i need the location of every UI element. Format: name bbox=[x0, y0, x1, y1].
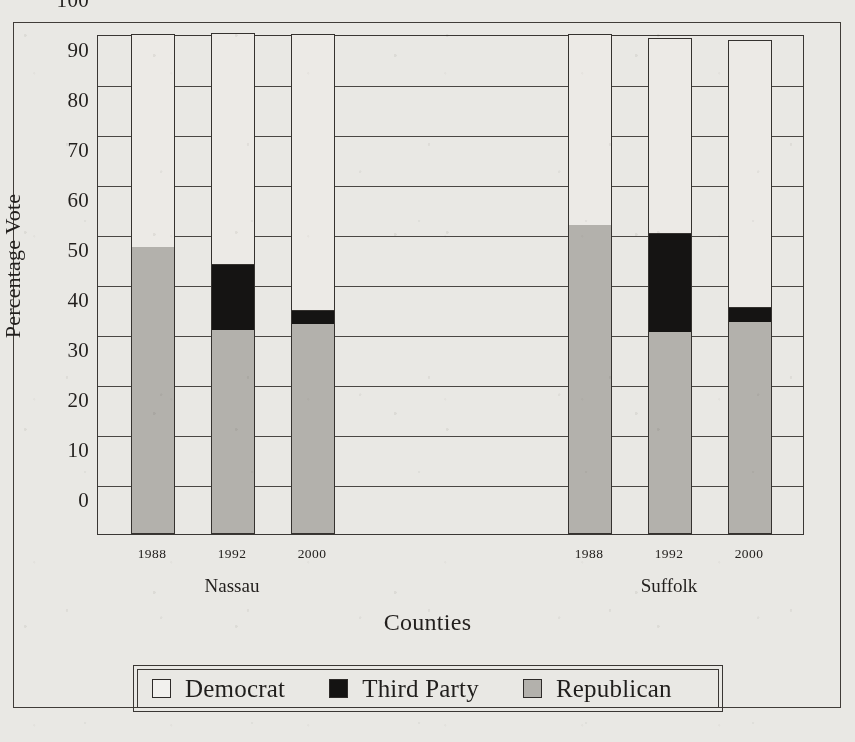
y-tick-label-70: 70 bbox=[67, 138, 89, 163]
x-axis-title: Counties bbox=[0, 609, 855, 636]
republican-swatch-icon bbox=[523, 679, 542, 698]
bar-nassau-1988[interactable] bbox=[131, 34, 175, 534]
segment-republican-nassau-2000 bbox=[292, 324, 334, 533]
x-tick-label-nassau-1988: 1988 bbox=[138, 546, 167, 562]
segment-democrat-nassau-1988 bbox=[132, 35, 174, 247]
legend-label-third-party: Third Party bbox=[362, 675, 479, 703]
segment-democrat-nassau-1992 bbox=[212, 34, 254, 265]
bar-suffolk-1988[interactable] bbox=[568, 34, 612, 534]
y-axis-title: Percentage Vote bbox=[0, 86, 26, 446]
segment-third-party-suffolk-1992 bbox=[649, 233, 691, 332]
y-tick-label-50: 50 bbox=[67, 238, 89, 263]
gridline-50 bbox=[98, 286, 803, 287]
x-tick-label-suffolk-1988: 1988 bbox=[575, 546, 604, 562]
gridline-90 bbox=[98, 86, 803, 87]
segment-third-party-nassau-1992 bbox=[212, 264, 254, 330]
legend-label-democrat: Democrat bbox=[185, 675, 285, 703]
bar-nassau-1992[interactable] bbox=[211, 33, 255, 535]
chart-legend: DemocratThird PartyRepublican bbox=[133, 665, 723, 712]
y-tick-label-10: 10 bbox=[67, 438, 89, 463]
legend-item-third-party[interactable]: Third Party bbox=[329, 675, 479, 703]
segment-democrat-suffolk-1992 bbox=[649, 39, 691, 233]
chart-figure: Percentage Vote 0102030405060708090100 1… bbox=[0, 0, 855, 742]
gridline-80 bbox=[98, 136, 803, 137]
x-tick-label-nassau-1992: 1992 bbox=[218, 546, 247, 562]
bar-suffolk-2000[interactable] bbox=[728, 40, 772, 534]
gridline-60 bbox=[98, 236, 803, 237]
segment-third-party-suffolk-2000 bbox=[729, 307, 771, 322]
segment-democrat-suffolk-2000 bbox=[729, 41, 771, 307]
segment-republican-nassau-1992 bbox=[212, 330, 254, 533]
legend-label-republican: Republican bbox=[556, 675, 672, 703]
segment-republican-nassau-1988 bbox=[132, 247, 174, 533]
y-tick-label-40: 40 bbox=[67, 288, 89, 313]
third-party-swatch-icon bbox=[329, 679, 348, 698]
gridline-70 bbox=[98, 186, 803, 187]
legend-item-democrat[interactable]: Democrat bbox=[152, 675, 285, 703]
bar-nassau-2000[interactable] bbox=[291, 34, 335, 534]
group-label-nassau: Nassau bbox=[205, 575, 260, 597]
y-tick-label-20: 20 bbox=[67, 388, 89, 413]
segment-democrat-nassau-2000 bbox=[292, 35, 334, 310]
segment-republican-suffolk-2000 bbox=[729, 322, 771, 533]
y-tick-label-100: 100 bbox=[57, 0, 89, 13]
y-tick-label-0: 0 bbox=[78, 488, 89, 513]
x-tick-label-suffolk-1992: 1992 bbox=[655, 546, 684, 562]
x-tick-label-suffolk-2000: 2000 bbox=[735, 546, 764, 562]
gridline-30 bbox=[98, 386, 803, 387]
democrat-swatch-icon bbox=[152, 679, 171, 698]
y-tick-label-80: 80 bbox=[67, 88, 89, 113]
gridline-40 bbox=[98, 336, 803, 337]
plot-area bbox=[97, 35, 804, 535]
group-label-suffolk: Suffolk bbox=[641, 575, 698, 597]
legend-item-republican[interactable]: Republican bbox=[523, 675, 672, 703]
bar-suffolk-1992[interactable] bbox=[648, 38, 692, 534]
y-tick-label-60: 60 bbox=[67, 188, 89, 213]
segment-republican-suffolk-1988 bbox=[569, 225, 611, 533]
x-tick-label-nassau-2000: 2000 bbox=[298, 546, 327, 562]
y-tick-label-90: 90 bbox=[67, 38, 89, 63]
segment-republican-suffolk-1992 bbox=[649, 332, 691, 533]
segment-democrat-suffolk-1988 bbox=[569, 35, 611, 225]
segment-third-party-nassau-2000 bbox=[292, 310, 334, 324]
y-tick-label-30: 30 bbox=[67, 338, 89, 363]
gridline-20 bbox=[98, 436, 803, 437]
gridline-10 bbox=[98, 486, 803, 487]
